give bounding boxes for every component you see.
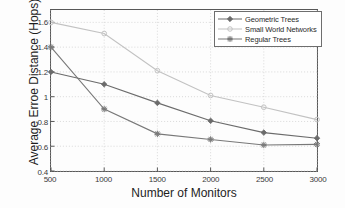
chart-figure: Average Erroe Distance (Hops) 0.40.60.81… (0, 0, 345, 208)
data-point-marker-circle (228, 27, 233, 32)
data-point-marker-star (227, 36, 233, 42)
data-point-marker-diamond (48, 69, 54, 75)
legend-marker-star-icon (217, 34, 243, 44)
data-point-marker-star (101, 106, 107, 112)
series-line (51, 47, 317, 145)
x-tick-label: 500 (44, 175, 57, 184)
y-axis-tick-labels: 0.40.60.811.21.41.6 (26, 9, 48, 172)
data-point-marker-diamond (261, 130, 267, 136)
x-tick-label: 2500 (256, 175, 273, 184)
data-point-marker-diamond (101, 82, 107, 88)
y-tick-label: 0.8 (37, 117, 48, 126)
data-point-marker-star (48, 44, 54, 50)
series-line (51, 72, 317, 138)
chart-legend[interactable]: Geometric TreesSmall World NetworksRegul… (214, 11, 322, 47)
x-tick-label: 1500 (149, 175, 166, 184)
data-point-marker-diamond (155, 100, 161, 106)
series-0 (48, 69, 320, 141)
legend-label: Small World Networks (243, 25, 317, 34)
legend-label: Geometric Trees (243, 15, 299, 24)
x-tick-label: 3000 (310, 175, 327, 184)
y-tick-label: 1.6 (37, 17, 48, 26)
legend-item-1[interactable]: Small World Networks (217, 24, 317, 34)
y-tick-label: 0.6 (37, 142, 48, 151)
x-axis-title: Number of Monitors (50, 186, 318, 200)
series-2 (48, 44, 320, 148)
legend-marker-circle-icon (217, 24, 243, 34)
x-tick-label: 1000 (95, 175, 112, 184)
legend-marker-diamond-icon (217, 14, 243, 24)
data-point-marker-diamond (314, 135, 320, 141)
y-tick-label: 1.4 (37, 42, 48, 51)
y-tick-label: 1 (44, 92, 48, 101)
legend-item-2[interactable]: Regular Trees (217, 34, 317, 44)
data-point-marker-diamond (227, 16, 232, 21)
x-tick-label: 2000 (202, 175, 219, 184)
legend-label: Regular Trees (243, 35, 291, 44)
y-tick-label: 1.2 (37, 67, 48, 76)
data-point-marker-diamond (208, 118, 214, 124)
legend-item-0[interactable]: Geometric Trees (217, 14, 317, 24)
